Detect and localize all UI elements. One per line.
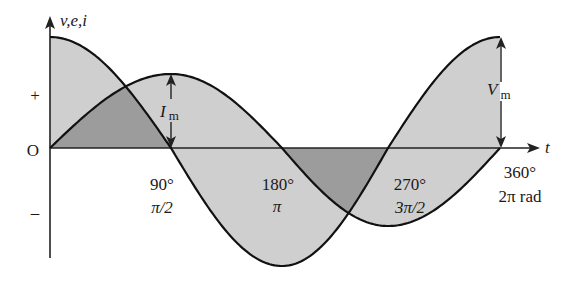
tick-270-rad: 3π/2 — [394, 198, 426, 217]
x-axis-label: t — [545, 138, 551, 157]
tick-270-deg: 270° — [394, 175, 426, 194]
tick-360-rad: 2π rad — [498, 187, 542, 206]
voltage-amplitude-subscript: m — [500, 87, 510, 102]
tick-180-deg: 180° — [262, 175, 294, 194]
y-axis-label: v,e,i — [60, 11, 87, 30]
plus-label: + — [30, 86, 40, 105]
tick-90-deg: 90° — [150, 175, 174, 194]
tick-360-deg: 360° — [504, 163, 536, 182]
minus-label: – — [30, 203, 40, 222]
ac-waveform-diagram: v,e,i t O + – Im Vm 90° π/2 180° π 270° … — [0, 0, 576, 286]
tick-90-rad: π/2 — [151, 198, 173, 217]
origin-label: O — [27, 141, 39, 160]
current-amplitude-subscript: m — [169, 108, 179, 123]
tick-180-rad: π — [273, 197, 282, 216]
